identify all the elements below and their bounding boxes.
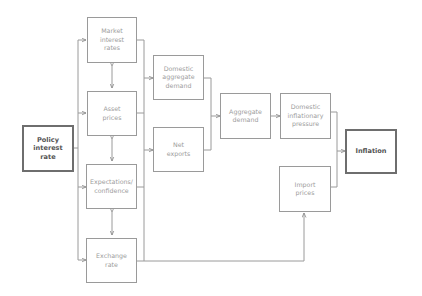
inflation-box: Inflation [345, 129, 397, 174]
expectations-confidence-box: Expectations/ confidence [86, 164, 137, 209]
policy-interest-rate-label: Policy interest rate [33, 136, 62, 161]
exchange-rate-label: Exchange rate [96, 252, 127, 269]
domestic-inflationary-pressure-box: Domestic inflationary pressure [280, 93, 331, 139]
asset-prices-label: Asset prices [103, 105, 122, 122]
import-prices-label: Import prices [295, 181, 316, 198]
inflation-label: Inflation [355, 147, 386, 155]
import-prices-box: Import prices [279, 166, 331, 212]
policy-interest-rate-box: Policy interest rate [22, 125, 74, 172]
aggregate-demand-box: Aggregate demand [220, 93, 271, 139]
domestic-aggregate-demand-box: Domestic aggregate demand [153, 55, 204, 100]
net-exports-box: Net exports [153, 127, 204, 172]
market-interest-rates-box: Market interest rates [87, 17, 137, 63]
domestic-inflationary-pressure-label: Domestic inflationary pressure [288, 103, 324, 128]
exchange-rate-box: Exchange rate [86, 238, 137, 283]
net-exports-label: Net exports [167, 141, 191, 158]
expectations-confidence-label: Expectations/ confidence [90, 178, 133, 195]
market-interest-rates-label: Market interest rates [100, 27, 124, 52]
asset-prices-box: Asset prices [87, 91, 137, 136]
transmission-diagram: Policy interest rate Market interest rat… [0, 0, 422, 296]
aggregate-demand-label: Aggregate demand [229, 108, 262, 125]
domestic-aggregate-demand-label: Domestic aggregate demand [162, 65, 194, 90]
